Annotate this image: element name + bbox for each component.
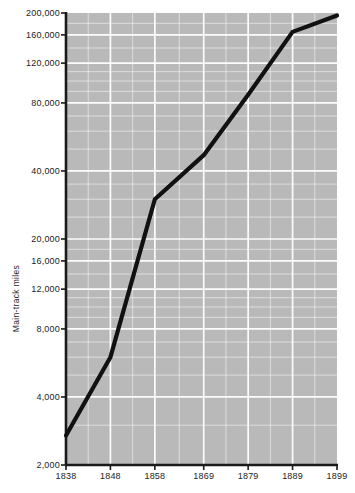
y-tick-label: 80,000 — [31, 98, 60, 108]
y-tick-label: 40,000 — [31, 166, 60, 176]
chart-figure: Main-track miles 2,0004,0008,00012,00016… — [0, 0, 355, 493]
x-tick-label: 1869 — [193, 471, 214, 481]
y-tick-label: 4,000 — [36, 392, 60, 402]
plot-canvas — [0, 0, 355, 493]
x-tick-label: 1848 — [100, 471, 121, 481]
y-tick-label: 12,000 — [31, 284, 60, 294]
y-tick-label: 2,000 — [36, 460, 60, 470]
y-tick-label: 8,000 — [36, 324, 60, 334]
x-tick-label: 1838 — [56, 471, 77, 481]
x-tick-label: 1858 — [144, 471, 165, 481]
x-tick-label: 1889 — [282, 471, 303, 481]
x-tick-label: 1899 — [327, 471, 348, 481]
y-tick-label: 120,000 — [26, 58, 60, 68]
y-tick-label: 160,000 — [26, 30, 60, 40]
y-tick-label: 16,000 — [31, 256, 60, 266]
y-tick-label: 200,000 — [26, 8, 60, 18]
y-tick-label: 20,000 — [31, 234, 60, 244]
x-tick-label: 1879 — [238, 471, 259, 481]
